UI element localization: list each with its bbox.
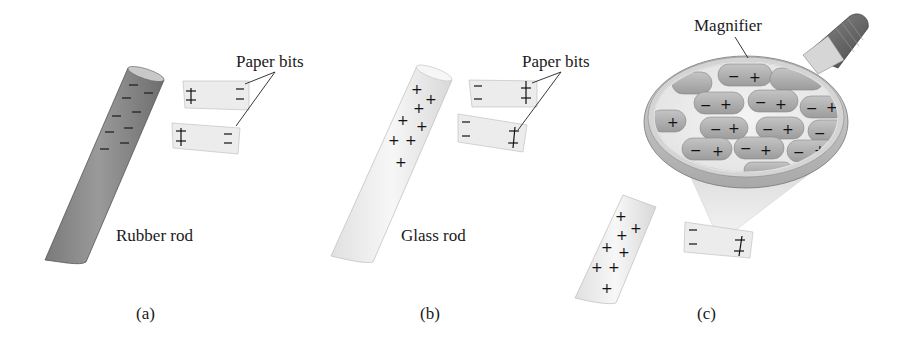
svg-text:−: − [728,68,740,84]
svg-text:−: − [814,125,826,141]
magnifier-label: Magnifier [694,16,762,36]
svg-text:+: + [712,143,724,159]
svg-text:+: + [618,244,630,260]
svg-text:+: + [388,132,400,148]
paper-bits-label-a: Paper bits [236,52,304,72]
svg-text:+: + [411,81,423,97]
rubber-rod-label: Rubber rod [116,226,193,246]
paper-bit-c [684,222,753,258]
caption-c: (c) [697,304,716,324]
svg-text:+: + [760,142,772,158]
paper-bits-label-b: Paper bits [522,52,590,72]
svg-text:+: + [413,100,425,116]
svg-text:+: + [425,91,437,107]
svg-text:+: + [395,154,407,170]
caption-b: (b) [420,304,440,324]
svg-text:−: − [793,144,805,160]
svg-text:−: − [700,97,712,113]
magnifier-lens: −+ −+ −+ −+ + −+ −+ − −+ −+ −+ [644,56,852,188]
svg-text:+: + [782,121,794,137]
svg-text:−: − [740,140,752,156]
svg-text:−: − [690,142,702,158]
glass-rod-label: Glass rod [401,226,466,246]
magnifier-pointer [735,37,748,58]
svg-text:+: + [667,114,679,130]
panel-c: −+ −+ −+ −+ + −+ −+ − −+ −+ −+ [575,14,868,304]
magnifier-handle [803,14,868,74]
svg-text:+: + [616,227,628,243]
svg-text:−: − [762,121,774,137]
svg-text:+: + [630,220,642,236]
caption-a: (a) [136,304,155,324]
svg-text:+: + [601,280,613,296]
svg-text:+: + [775,96,787,112]
svg-text:+: + [416,118,428,134]
svg-text:+: + [728,120,740,136]
svg-text:+: + [405,132,417,148]
paper-bit-a1 [183,81,249,110]
svg-text:−: − [755,94,767,110]
paper-bit-a2 [172,123,240,154]
electrostatic-induction-figure: + + + + + + + + [0,0,904,341]
svg-text:+: + [608,259,620,275]
glass-rod-c: + + + + + + + + [575,195,656,304]
svg-text:+: + [601,239,613,255]
svg-text:+: + [591,259,603,275]
svg-text:−: − [710,121,722,137]
svg-text:+: + [720,96,732,112]
svg-text:−: − [806,100,818,116]
paper-bit-b2 [458,114,527,152]
svg-text:+: + [749,69,761,85]
paper-bit-b1 [469,80,537,107]
svg-text:+: + [615,208,627,224]
svg-text:+: + [397,112,409,128]
